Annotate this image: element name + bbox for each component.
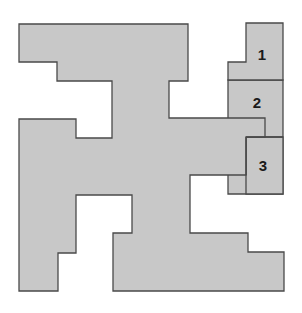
piece-1 — [228, 23, 283, 80]
puzzle-diagram: 1 2 3 — [0, 0, 302, 313]
piece-1-label: 1 — [258, 46, 266, 63]
piece-2-label: 2 — [253, 94, 261, 111]
piece-3-label: 3 — [259, 157, 267, 174]
